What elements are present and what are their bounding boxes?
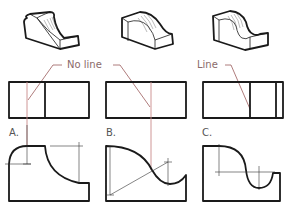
label-b: B. bbox=[106, 127, 116, 138]
isometric-object-b bbox=[122, 12, 173, 49]
no-line-callout: No line bbox=[67, 59, 102, 70]
top-view-a bbox=[9, 82, 89, 118]
label-a: A. bbox=[9, 127, 19, 138]
front-profile-b bbox=[106, 146, 186, 201]
top-view-c bbox=[203, 82, 283, 118]
isometric-object-a bbox=[24, 12, 79, 49]
tangent-surfaces-diagram: No line Line A. B. C. bbox=[0, 0, 290, 212]
top-view-b bbox=[106, 82, 186, 118]
front-profile-c bbox=[203, 144, 280, 201]
line-callout: Line bbox=[197, 59, 218, 70]
isometric-object-c bbox=[213, 11, 268, 50]
label-c: C. bbox=[202, 127, 212, 138]
leader-line-c bbox=[225, 65, 250, 109]
leader-no-line-b bbox=[113, 65, 150, 107]
